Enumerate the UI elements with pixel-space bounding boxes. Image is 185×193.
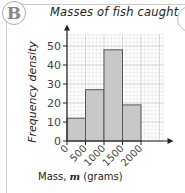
svg-text:30: 30 bbox=[47, 78, 61, 91]
svg-text:0: 0 bbox=[58, 143, 70, 155]
x-axis-label: Mass, m (grams) bbox=[38, 171, 123, 182]
histogram-chart: 010203040500500100015002000Frequency den… bbox=[0, 0, 185, 193]
x-label-variable: m bbox=[70, 171, 81, 182]
svg-text:Frequency density: Frequency density bbox=[26, 41, 39, 143]
svg-text:10: 10 bbox=[47, 116, 61, 129]
histogram-bar bbox=[86, 90, 105, 141]
histogram-bar bbox=[123, 105, 142, 141]
svg-text:2000: 2000 bbox=[119, 143, 145, 169]
x-label-text: Mass, bbox=[38, 171, 70, 182]
histogram-bar bbox=[67, 118, 86, 141]
svg-text:20: 20 bbox=[47, 97, 61, 110]
svg-text:50: 50 bbox=[47, 40, 61, 53]
histogram-bar bbox=[104, 50, 123, 141]
svg-text:40: 40 bbox=[47, 59, 61, 72]
x-label-unit: (grams) bbox=[80, 171, 123, 182]
